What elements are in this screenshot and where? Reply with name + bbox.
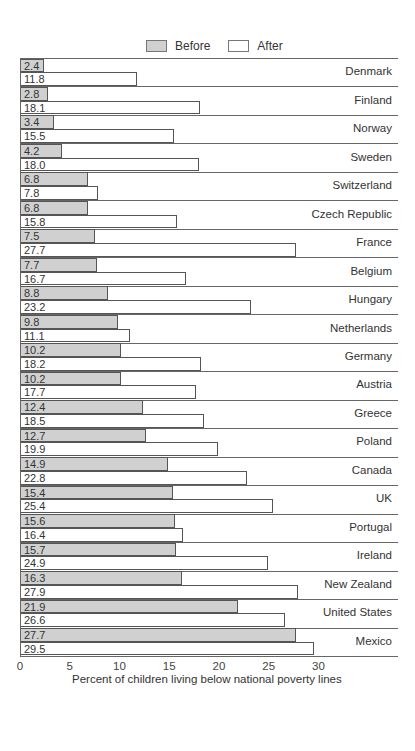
bar-value-label: 8.8 bbox=[24, 287, 39, 299]
country-row: 12.418.5Greece bbox=[20, 400, 398, 428]
bar-before: 15.7 bbox=[20, 543, 176, 557]
country-row: 9.811.1Netherlands bbox=[20, 314, 398, 342]
bar-value-label: 7.8 bbox=[24, 187, 39, 199]
bar-before: 2.8 bbox=[20, 87, 48, 101]
bar-after: 23.2 bbox=[20, 300, 251, 314]
legend-label-before: Before bbox=[175, 39, 210, 53]
country-row: 15.425.4UK bbox=[20, 485, 398, 513]
bar-after: 15.8 bbox=[20, 215, 177, 229]
country-label: Germany bbox=[345, 350, 392, 362]
x-tick-label: 30 bbox=[312, 660, 325, 672]
country-row: 6.815.8Czech Republic bbox=[20, 200, 398, 228]
bar-value-label: 27.7 bbox=[24, 629, 45, 641]
country-row: 27.729.5Mexico bbox=[20, 628, 398, 656]
bar-before: 7.5 bbox=[20, 229, 95, 243]
bar-after: 18.2 bbox=[20, 357, 201, 371]
bar-before: 6.8 bbox=[20, 172, 88, 186]
country-row: 2.411.8Denmark bbox=[20, 58, 398, 86]
bar-after: 7.8 bbox=[20, 186, 98, 200]
bar-after: 11.1 bbox=[20, 329, 130, 343]
country-row: 16.327.9New Zealand bbox=[20, 571, 398, 599]
country-row: 3.415.5Norway bbox=[20, 115, 398, 143]
bar-after: 29.5 bbox=[20, 642, 314, 656]
row-separator bbox=[20, 86, 398, 87]
bar-value-label: 24.9 bbox=[24, 557, 45, 569]
bar-before: 3.4 bbox=[20, 115, 54, 129]
bar-value-label: 6.8 bbox=[24, 202, 39, 214]
row-separator bbox=[20, 58, 398, 59]
bar-value-label: 6.8 bbox=[24, 173, 39, 185]
country-row: 14.922.8Canada bbox=[20, 457, 398, 485]
bar-value-label: 21.9 bbox=[24, 601, 45, 613]
legend-swatch-after bbox=[228, 40, 249, 52]
row-separator bbox=[20, 115, 398, 116]
bar-before: 4.2 bbox=[20, 144, 62, 158]
bar-after: 24.9 bbox=[20, 556, 268, 570]
bar-value-label: 7.5 bbox=[24, 230, 39, 242]
country-row: 7.716.7Belgium bbox=[20, 257, 398, 285]
bar-value-label: 29.5 bbox=[24, 643, 45, 655]
x-tick-label: 20 bbox=[213, 660, 226, 672]
country-row: 7.527.7France bbox=[20, 229, 398, 257]
country-label: Hungary bbox=[349, 293, 392, 305]
bar-after: 27.9 bbox=[20, 585, 298, 599]
country-row: 4.218.0Sweden bbox=[20, 143, 398, 171]
bar-value-label: 18.5 bbox=[24, 415, 45, 427]
bar-before: 27.7 bbox=[20, 628, 296, 642]
bar-before: 7.7 bbox=[20, 258, 97, 272]
bar-value-label: 17.7 bbox=[24, 386, 45, 398]
legend-item-before: Before bbox=[146, 39, 210, 53]
country-row: 6.87.8Switzerland bbox=[20, 172, 398, 200]
country-label: Sweden bbox=[350, 151, 392, 163]
bar-value-label: 22.8 bbox=[24, 472, 45, 484]
country-label: France bbox=[356, 236, 392, 248]
bar-value-label: 27.7 bbox=[24, 244, 45, 256]
country-label: Norway bbox=[353, 122, 392, 134]
country-label: Denmark bbox=[345, 65, 392, 77]
bar-before: 15.6 bbox=[20, 514, 175, 528]
legend-label-after: After bbox=[257, 39, 282, 53]
legend-item-after: After bbox=[228, 39, 282, 53]
plot-area: 2.411.8Denmark2.818.1Finland3.415.5Norwa… bbox=[20, 58, 398, 656]
bar-before: 14.9 bbox=[20, 457, 168, 471]
country-label: UK bbox=[376, 492, 392, 504]
bar-value-label: 18.2 bbox=[24, 358, 45, 370]
country-row: 12.719.9Poland bbox=[20, 428, 398, 456]
x-tick-label: 5 bbox=[67, 660, 73, 672]
country-label: Finland bbox=[354, 94, 392, 106]
bar-after: 16.7 bbox=[20, 272, 186, 286]
country-label: Czech Republic bbox=[311, 208, 392, 220]
bar-value-label: 15.6 bbox=[24, 515, 45, 527]
bar-before: 12.4 bbox=[20, 400, 143, 414]
bar-after: 25.4 bbox=[20, 499, 273, 513]
bar-before: 6.8 bbox=[20, 201, 88, 215]
bar-value-label: 18.1 bbox=[24, 102, 45, 114]
bar-after: 17.7 bbox=[20, 385, 196, 399]
x-axis-line bbox=[20, 656, 398, 657]
bar-value-label: 25.4 bbox=[24, 500, 45, 512]
bar-value-label: 7.7 bbox=[24, 259, 39, 271]
country-label: United States bbox=[323, 606, 392, 618]
country-row: 15.724.9Ireland bbox=[20, 542, 398, 570]
country-label: Ireland bbox=[357, 549, 392, 561]
bar-after: 19.9 bbox=[20, 442, 218, 456]
bar-before: 16.3 bbox=[20, 571, 182, 585]
bar-after: 26.6 bbox=[20, 613, 285, 627]
bar-before: 21.9 bbox=[20, 600, 238, 614]
bar-before: 2.4 bbox=[20, 59, 44, 73]
bar-value-label: 12.4 bbox=[24, 401, 45, 413]
bar-value-label: 11.1 bbox=[24, 330, 45, 342]
country-label: Greece bbox=[354, 407, 392, 419]
country-label: Austria bbox=[356, 378, 392, 390]
bar-value-label: 12.7 bbox=[24, 430, 45, 442]
bar-value-label: 16.7 bbox=[24, 273, 45, 285]
bar-value-label: 15.4 bbox=[24, 487, 45, 499]
bar-value-label: 14.9 bbox=[24, 458, 45, 470]
bar-value-label: 2.8 bbox=[24, 88, 39, 100]
row-separator bbox=[20, 143, 398, 144]
legend-swatch-before bbox=[146, 40, 167, 52]
x-tick-label: 15 bbox=[163, 660, 176, 672]
x-tick-label: 10 bbox=[113, 660, 126, 672]
bar-after: 27.7 bbox=[20, 243, 296, 257]
country-label: Portugal bbox=[349, 521, 392, 533]
